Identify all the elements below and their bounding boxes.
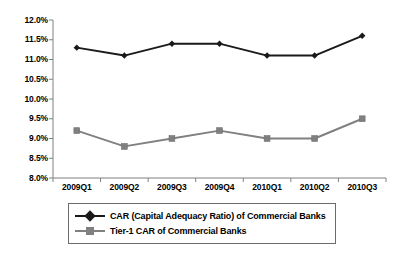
data-point-marker xyxy=(121,144,127,150)
x-axis-tick-label: 2009Q4 xyxy=(205,182,235,192)
data-point-marker xyxy=(264,136,270,142)
x-axis-tick-label: 2009Q3 xyxy=(157,182,187,192)
data-point-marker xyxy=(169,41,175,47)
y-axis-tick-label: 12.0% xyxy=(4,16,48,25)
legend-item-car[interactable]: CAR (Capital Adequacy Ratio) of Commerci… xyxy=(75,208,329,223)
data-point-marker xyxy=(216,41,222,47)
y-axis-tick-label: 11.0% xyxy=(4,55,48,64)
data-point-marker xyxy=(312,136,318,142)
chart-figure: 12.0%11.5%11.0%10.5%10.0%9.5%9.0%8.5%8.0… xyxy=(0,0,400,257)
x-axis-tick-label: 2009Q2 xyxy=(110,182,140,192)
legend-label-tier1: Tier-1 CAR of Commercial Banks xyxy=(110,226,246,236)
data-series-group xyxy=(74,33,366,150)
legend-label-car: CAR (Capital Adequacy Ratio) of Commerci… xyxy=(110,211,326,221)
data-point-marker xyxy=(359,116,365,122)
data-point-marker xyxy=(74,44,80,50)
data-point-marker xyxy=(264,52,270,58)
chart-legend: CAR (Capital Adequacy Ratio) of Commerci… xyxy=(68,203,336,244)
data-point-marker xyxy=(169,136,175,142)
x-axis-tick-labels: 2009Q12009Q22009Q32009Q42010Q12010Q22010… xyxy=(0,182,400,196)
chart-canvas xyxy=(0,0,400,196)
y-axis-tick-label: 10.0% xyxy=(4,95,48,104)
data-point-marker xyxy=(74,128,80,134)
x-axis-tick-label: 2010Q3 xyxy=(347,182,377,192)
y-axis-tick-label: 8.5% xyxy=(4,154,48,163)
data-point-marker xyxy=(359,33,365,39)
y-axis-tick-label: 11.5% xyxy=(4,35,48,44)
y-axis-tick-labels: 12.0%11.5%11.0%10.5%10.0%9.5%9.0%8.5%8.0… xyxy=(4,0,48,196)
data-point-marker xyxy=(311,52,317,58)
data-point-marker xyxy=(217,128,223,134)
x-axis-tick-label: 2009Q1 xyxy=(62,182,92,192)
plot-area xyxy=(0,0,400,196)
x-axis-tick-label: 2010Q1 xyxy=(252,182,282,192)
legend-marker-diamond-icon xyxy=(75,209,105,222)
y-axis-tick-label: 9.5% xyxy=(4,114,48,123)
legend-marker-square-icon xyxy=(75,224,105,237)
y-axis-tick-label: 10.5% xyxy=(4,75,48,84)
x-axis-tick-label: 2010Q2 xyxy=(300,182,330,192)
legend-item-tier1[interactable]: Tier-1 CAR of Commercial Banks xyxy=(75,223,329,238)
data-point-marker xyxy=(121,52,127,58)
y-axis-tick-label: 9.0% xyxy=(4,134,48,143)
